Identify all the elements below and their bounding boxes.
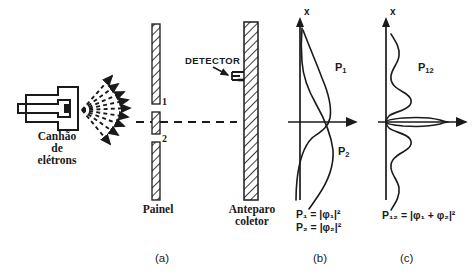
curve-p1-label: P1 <box>335 62 347 74</box>
graph-c-x-axis-label: x <box>390 7 396 18</box>
formula-p12: P₁₂ = |φ₁ + φ₂|² <box>382 210 455 221</box>
anteparo-coletor-label-line2: coletor <box>221 215 283 227</box>
anteparo-coletor-screen <box>244 22 258 200</box>
double-slit-experiment-figure: Canhão de elétrons 1 2 Painel DETECTOR A… <box>0 0 474 277</box>
curve-p2-label-sub: 2 <box>345 150 349 159</box>
curve-p1-label-sub: 1 <box>342 66 346 75</box>
electron-gun-label: Canhão de elétrons <box>2 130 112 166</box>
detector-probe <box>213 67 244 80</box>
anteparo-coletor-label: Anteparo coletor <box>221 203 283 227</box>
caption-b: (b) <box>313 252 327 264</box>
electron-gun-label-line1: Canhão <box>2 130 112 142</box>
graph-b-x-axis-label: x <box>304 7 310 18</box>
detector-label: DETECTOR <box>185 56 240 66</box>
caption-c: (c) <box>400 252 413 264</box>
formula-p1: P₁ = |φ₁|² <box>296 209 341 220</box>
curve-p2-label: P2 <box>338 146 350 158</box>
anteparo-coletor-label-line1: Anteparo <box>221 203 283 215</box>
curve-p12-label-sub: 12 <box>425 66 433 75</box>
electron-gun <box>18 87 78 130</box>
curve-p12-label: P12 <box>418 62 434 74</box>
painel-barrier <box>152 24 160 200</box>
caption-a: (a) <box>155 252 169 264</box>
curve-p2 <box>301 28 333 209</box>
formula-p2: P₂ = |φ₂|² <box>296 222 341 233</box>
slit-2-label: 2 <box>162 134 167 145</box>
electron-gun-label-line2: de <box>2 142 112 154</box>
graph-c-axes <box>378 17 466 200</box>
slit-1-label: 1 <box>162 97 167 108</box>
electron-gun-label-line3: elétrons <box>2 154 112 166</box>
painel-label: Painel <box>130 203 186 215</box>
